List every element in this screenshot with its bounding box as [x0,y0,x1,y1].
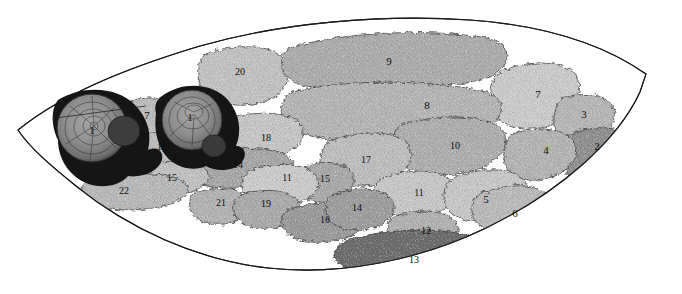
region-label-r14l: 14 [233,159,243,170]
region-label-r15m: 15 [320,173,330,184]
region-label-r4: 4 [543,144,549,156]
region-label-r7t: 7 [535,88,541,100]
region-label-r10l: 10 [157,141,167,152]
region-label-r11r: 11 [414,187,424,198]
region-label-r5: 5 [483,193,489,205]
region-label-r11m: 11 [282,172,292,183]
region-label-r2: 2 [594,140,600,152]
region-label-r21: 21 [216,197,226,208]
region-label-r15l: 15 [167,172,177,183]
region-label-r14b: 14 [352,202,362,213]
region-label-r17: 17 [361,154,371,165]
region-label-r6: 6 [512,207,518,219]
region-label-r1a: 1 [89,124,95,136]
region-label-r16: 16 [320,214,330,225]
region-label-r20: 20 [235,66,245,77]
region-label-r12: 12 [421,225,431,236]
nucleus-right-lobe[interactable] [202,135,226,157]
region-label-r18: 18 [261,132,271,143]
region-diagram: 1123456778910101111121314141515161718192… [0,0,682,294]
region-label-r19: 19 [261,198,271,209]
region-label-r3: 3 [581,108,587,120]
region-label-r7l: 7 [144,109,150,121]
region-label-r8: 8 [424,99,430,111]
figure-root: 1123456778910101111121314141515161718192… [0,0,682,294]
region-label-r13: 13 [409,254,419,265]
region-label-r22: 22 [119,185,129,196]
nucleus-left-lobe[interactable] [108,116,140,146]
region-label-r1b: 1 [187,111,193,123]
region-label-r9: 9 [386,55,392,67]
region-label-r10r: 10 [450,140,460,151]
